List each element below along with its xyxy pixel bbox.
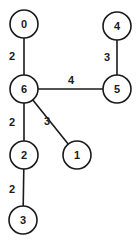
node-label: 2 bbox=[21, 149, 27, 161]
weighted-graph-diagram: 234232 0465213 bbox=[0, 0, 139, 247]
node-5: 5 bbox=[103, 75, 131, 103]
node-6: 6 bbox=[10, 75, 38, 103]
node-label: 6 bbox=[21, 83, 27, 95]
node-2: 2 bbox=[10, 141, 38, 169]
node-label: 0 bbox=[21, 18, 27, 30]
node-1: 1 bbox=[63, 141, 91, 169]
edge-weight-2-3: 2 bbox=[9, 183, 15, 195]
node-4: 4 bbox=[103, 12, 131, 40]
node-0: 0 bbox=[10, 10, 38, 38]
edge-weight-6-2: 2 bbox=[9, 116, 15, 128]
node-label: 5 bbox=[114, 83, 120, 95]
node-3: 3 bbox=[9, 206, 37, 234]
edges-layer bbox=[23, 24, 117, 220]
node-label: 4 bbox=[114, 20, 121, 32]
edge-weight-6-1: 3 bbox=[44, 115, 50, 127]
node-label: 3 bbox=[20, 214, 26, 226]
node-label: 1 bbox=[74, 149, 80, 161]
nodes-layer: 0465213 bbox=[9, 10, 131, 234]
edge-weight-4-5: 3 bbox=[104, 51, 110, 63]
edge-weight-6-5: 4 bbox=[68, 74, 75, 86]
edge-weight-0-6: 2 bbox=[9, 50, 15, 62]
